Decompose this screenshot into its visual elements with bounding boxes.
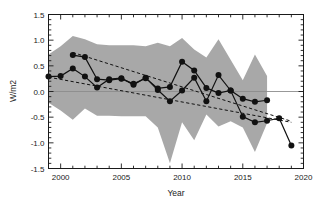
- series-1-marker: [252, 119, 258, 125]
- series-2-marker: [131, 81, 137, 87]
- chart-canvas: 20002005201020152020 -1.5-1.0-0.50.00.51…: [0, 0, 321, 205]
- x-tick-label: 2010: [173, 173, 191, 182]
- series-2-marker: [82, 54, 88, 60]
- series-1-marker: [70, 65, 76, 71]
- x-tick-label: 2020: [295, 173, 313, 182]
- series-2-marker: [264, 97, 270, 103]
- x-tick-label: 2005: [112, 173, 130, 182]
- series-2-marker: [203, 85, 209, 91]
- series-1-marker: [58, 73, 64, 79]
- x-tick-label: 2015: [234, 173, 252, 182]
- y-tick-label: -0.5: [31, 113, 45, 122]
- series-2-marker: [118, 76, 124, 82]
- series-1-marker: [276, 115, 282, 121]
- y-tick-label: 1.0: [33, 36, 45, 45]
- series-2-marker: [240, 96, 246, 102]
- series-1-marker: [288, 142, 294, 148]
- series-2-marker: [167, 84, 173, 90]
- series-1-marker: [264, 118, 270, 124]
- series-1-marker: [203, 98, 209, 104]
- y-tick-label: 0.0: [33, 88, 45, 97]
- series-2-marker: [179, 59, 185, 65]
- chart-figure: 20002005201020152020 -1.5-1.0-0.50.00.51…: [0, 0, 321, 205]
- series-2-marker: [228, 87, 234, 93]
- series-1-marker: [82, 74, 88, 80]
- series-1-marker: [216, 72, 222, 78]
- series-2-marker: [216, 90, 222, 96]
- y-tick-label: 1.5: [33, 11, 45, 20]
- x-tick-label: 2000: [52, 173, 70, 182]
- series-2-marker: [106, 77, 112, 83]
- series-2-marker: [70, 52, 76, 58]
- series-2-marker: [94, 76, 100, 82]
- x-axis-title: Year: [167, 188, 184, 198]
- series-1-marker: [240, 114, 246, 120]
- series-2-marker: [252, 99, 258, 105]
- series-1-marker: [94, 84, 100, 90]
- y-tick-label: -1.0: [31, 139, 45, 148]
- series-1-marker: [179, 87, 185, 93]
- y-tick-label: -1.5: [31, 165, 45, 174]
- series-1-marker: [167, 98, 173, 104]
- y-tick-label: 0.5: [33, 62, 45, 71]
- series-2-marker: [155, 85, 161, 91]
- series-2-marker: [191, 67, 197, 73]
- series-1-marker: [191, 75, 197, 81]
- y-axis-title: W/m2: [8, 80, 18, 102]
- series-2-marker: [143, 75, 149, 81]
